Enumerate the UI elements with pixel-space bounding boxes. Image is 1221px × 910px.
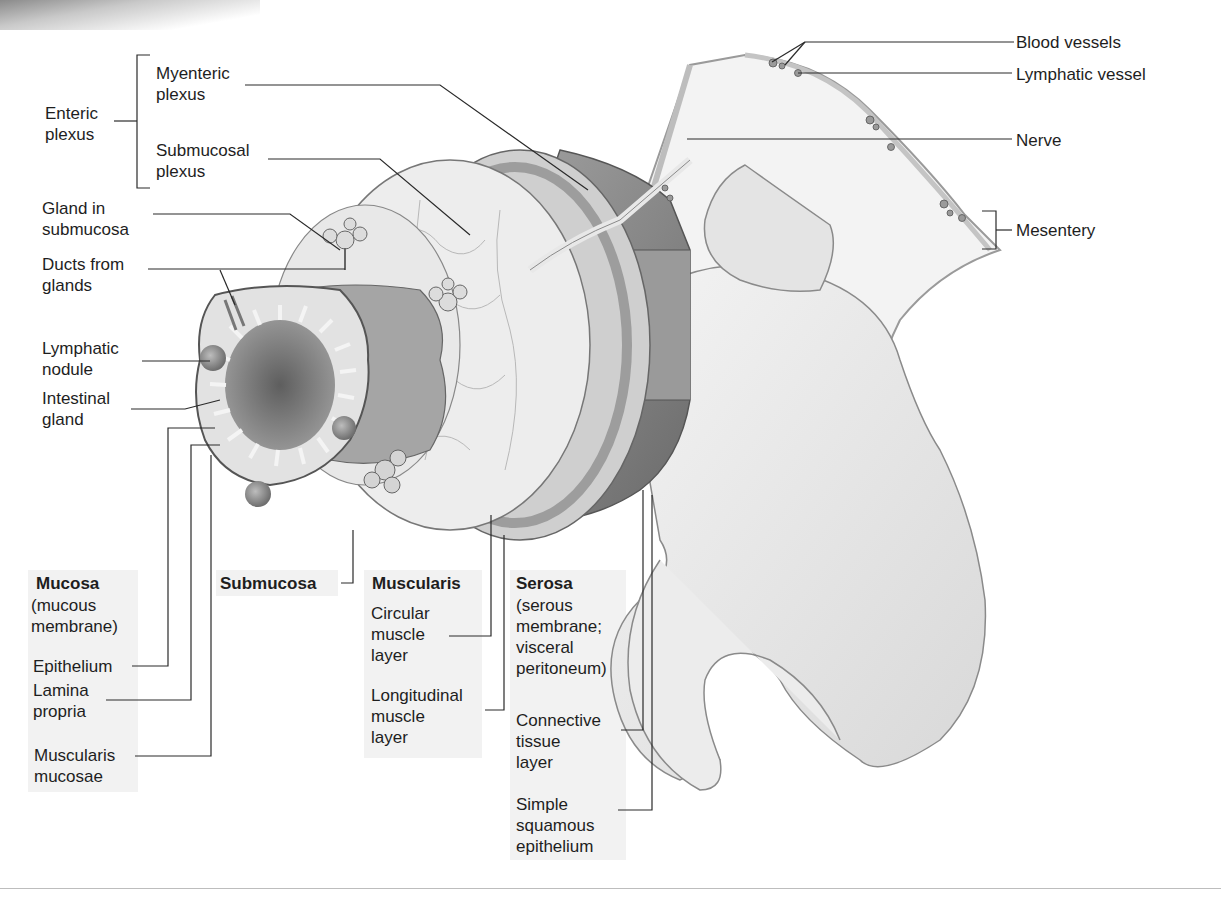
lymphatic-nodule-3 <box>245 481 271 507</box>
label-lymphatic-nodule: Lymphatic nodule <box>42 338 119 380</box>
label-myenteric-plexus: Myenteric plexus <box>156 63 230 105</box>
mucosa-item-lamina-propria: Lamina propria <box>33 680 89 722</box>
lymphatic-nodule-1 <box>200 345 226 371</box>
mucosa-item-epithelium: Epithelium <box>33 656 112 677</box>
serosa-subtitle: (serous membrane; visceral peritoneum) <box>516 595 607 679</box>
label-ducts-from-glands: Ducts from glands <box>42 254 124 296</box>
label-lymphatic-vessel: Lymphatic vessel <box>1016 64 1146 85</box>
mucosa-item-muscularis-mucosae: Muscularis mucosae <box>34 745 115 787</box>
label-gland-in-submucosa: Gland in submucosa <box>42 198 129 240</box>
muscularis-title: Muscularis <box>372 573 461 594</box>
mucosa-subtitle: (mucous membrane) <box>31 595 118 637</box>
label-enteric-plexus: Enteric plexus <box>45 103 98 145</box>
serosa-item-simple-squamous: Simple squamous epithelium <box>516 794 594 857</box>
label-mesentery: Mesentery <box>1016 220 1095 241</box>
lymphatic-nodule-2 <box>332 416 356 440</box>
mucosa-title: Mucosa <box>36 573 99 594</box>
submucosa-title: Submucosa <box>220 573 316 594</box>
muscularis-item-circular: Circular muscle layer <box>371 603 430 666</box>
page-bottom-rule <box>0 888 1221 889</box>
label-submucosal-plexus: Submucosal plexus <box>156 140 250 182</box>
serosa-item-connective-tissue: Connective tissue layer <box>516 710 601 773</box>
label-intestinal-gland: Intestinal gland <box>42 388 110 430</box>
muscularis-item-longitudinal: Longitudinal muscle layer <box>371 685 463 748</box>
label-blood-vessels: Blood vessels <box>1016 32 1121 53</box>
label-nerve: Nerve <box>1016 130 1061 151</box>
serosa-title: Serosa <box>516 573 573 594</box>
